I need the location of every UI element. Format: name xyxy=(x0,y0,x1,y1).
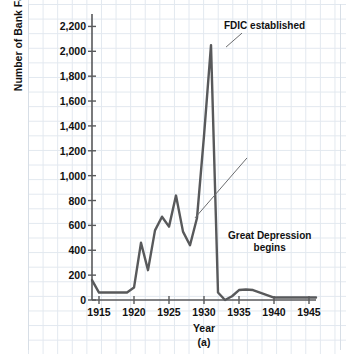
x-axis-title: Year xyxy=(88,322,320,334)
y-tick-label: 1,400 xyxy=(40,120,86,132)
panel-label: (a) xyxy=(88,336,320,348)
y-tick-label: 600 xyxy=(40,219,86,231)
y-tick-label: 1,000 xyxy=(40,170,86,182)
annotation-great-depression-line2: begins xyxy=(228,242,311,254)
line-chart-canvas xyxy=(88,14,320,304)
y-tick-label: 2,200 xyxy=(40,20,86,32)
annotation-fdic-established: FDIC established xyxy=(224,20,305,32)
y-tick-label: 1,600 xyxy=(40,95,86,107)
y-tick-label: 2,000 xyxy=(40,45,86,57)
y-tick-label: 0 xyxy=(40,294,86,306)
x-tick-label: 1940 xyxy=(262,306,285,318)
plot-area: Number of Bank Failures 02004006008001,0… xyxy=(88,14,320,304)
data-series-line xyxy=(92,45,316,300)
y-tick-label: 200 xyxy=(40,269,86,281)
x-tick-label: 1945 xyxy=(297,306,320,318)
annotation-great-depression-line1: Great Depression xyxy=(228,230,311,242)
x-tick-label: 1930 xyxy=(192,306,215,318)
y-tick-label: 800 xyxy=(40,195,86,207)
great-depression-leader-line xyxy=(195,158,247,218)
annotation-great-depression: Great Depression begins xyxy=(228,230,311,254)
y-tick-label: 1,200 xyxy=(40,145,86,157)
y-tick-label: 400 xyxy=(40,244,86,256)
y-axis-title: Number of Bank Failures xyxy=(12,0,24,114)
x-tick-label: 1925 xyxy=(157,306,180,318)
x-tick-label: 1915 xyxy=(87,306,110,318)
fdic-leader-line xyxy=(226,33,242,47)
y-tick-label: 1,800 xyxy=(40,70,86,82)
x-tick-label: 1920 xyxy=(122,306,145,318)
x-tick-label: 1935 xyxy=(227,306,250,318)
